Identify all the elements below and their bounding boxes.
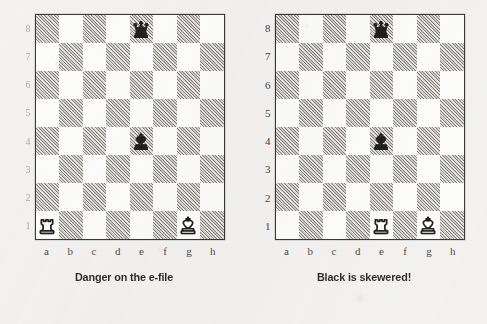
square-g2[interactable]	[417, 183, 441, 211]
square-e1[interactable]	[130, 211, 154, 239]
square-h7[interactable]	[200, 43, 224, 71]
square-g1[interactable]	[177, 211, 201, 239]
square-h2[interactable]	[440, 183, 464, 211]
square-h6[interactable]	[440, 71, 464, 99]
square-f6[interactable]	[393, 71, 417, 99]
square-c3[interactable]	[83, 155, 107, 183]
square-h8[interactable]	[200, 15, 224, 43]
square-c6[interactable]	[323, 71, 347, 99]
square-e6[interactable]	[130, 71, 154, 99]
square-a1[interactable]	[276, 211, 300, 239]
square-d3[interactable]	[346, 155, 370, 183]
square-d4[interactable]	[106, 127, 130, 155]
square-g2[interactable]	[177, 183, 201, 211]
square-d8[interactable]	[106, 15, 130, 43]
square-b2[interactable]	[299, 183, 323, 211]
square-b8[interactable]	[59, 15, 83, 43]
square-g4[interactable]	[417, 127, 441, 155]
square-e4[interactable]	[370, 127, 394, 155]
square-a6[interactable]	[276, 71, 300, 99]
square-f3[interactable]	[393, 155, 417, 183]
square-d3[interactable]	[106, 155, 130, 183]
square-a7[interactable]	[276, 43, 300, 71]
white-king-icon[interactable]	[177, 211, 201, 239]
square-b8[interactable]	[299, 15, 323, 43]
square-f5[interactable]	[393, 99, 417, 127]
square-c2[interactable]	[323, 183, 347, 211]
square-g7[interactable]	[177, 43, 201, 71]
square-f7[interactable]	[393, 43, 417, 71]
square-g8[interactable]	[177, 15, 201, 43]
square-g1[interactable]	[417, 211, 441, 239]
square-f2[interactable]	[393, 183, 417, 211]
square-b3[interactable]	[299, 155, 323, 183]
square-b2[interactable]	[59, 183, 83, 211]
square-c4[interactable]	[83, 127, 107, 155]
square-c1[interactable]	[323, 211, 347, 239]
square-c5[interactable]	[83, 99, 107, 127]
square-d6[interactable]	[106, 71, 130, 99]
square-h4[interactable]	[200, 127, 224, 155]
square-c7[interactable]	[83, 43, 107, 71]
square-c4[interactable]	[323, 127, 347, 155]
square-e3[interactable]	[370, 155, 394, 183]
square-e6[interactable]	[370, 71, 394, 99]
square-c7[interactable]	[323, 43, 347, 71]
square-d2[interactable]	[346, 183, 370, 211]
square-e3[interactable]	[130, 155, 154, 183]
square-c8[interactable]	[323, 15, 347, 43]
square-f8[interactable]	[153, 15, 177, 43]
square-g8[interactable]	[417, 15, 441, 43]
square-c3[interactable]	[323, 155, 347, 183]
square-f5[interactable]	[153, 99, 177, 127]
square-a3[interactable]	[36, 155, 60, 183]
square-f8[interactable]	[393, 15, 417, 43]
square-b6[interactable]	[299, 71, 323, 99]
square-g3[interactable]	[417, 155, 441, 183]
square-f4[interactable]	[393, 127, 417, 155]
black-king-icon[interactable]	[130, 127, 154, 155]
square-h1[interactable]	[440, 211, 464, 239]
chessboard[interactable]	[35, 14, 225, 240]
black-queen-icon[interactable]	[130, 15, 154, 43]
square-a3[interactable]	[276, 155, 300, 183]
square-e8[interactable]	[130, 15, 154, 43]
square-e7[interactable]	[130, 43, 154, 71]
square-e1[interactable]	[370, 211, 394, 239]
square-d7[interactable]	[106, 43, 130, 71]
square-e8[interactable]	[370, 15, 394, 43]
square-b4[interactable]	[299, 127, 323, 155]
square-b1[interactable]	[59, 211, 83, 239]
square-a2[interactable]	[36, 183, 60, 211]
square-a1[interactable]	[36, 211, 60, 239]
square-h5[interactable]	[200, 99, 224, 127]
square-h3[interactable]	[440, 155, 464, 183]
square-b5[interactable]	[299, 99, 323, 127]
square-d4[interactable]	[346, 127, 370, 155]
square-g6[interactable]	[177, 71, 201, 99]
square-h1[interactable]	[200, 211, 224, 239]
black-king-icon[interactable]	[370, 127, 394, 155]
square-e7[interactable]	[370, 43, 394, 71]
white-rook-icon[interactable]	[36, 211, 60, 239]
square-d2[interactable]	[106, 183, 130, 211]
square-d5[interactable]	[106, 99, 130, 127]
black-queen-icon[interactable]	[370, 15, 394, 43]
square-f1[interactable]	[393, 211, 417, 239]
square-c8[interactable]	[83, 15, 107, 43]
square-a5[interactable]	[36, 99, 60, 127]
square-h6[interactable]	[200, 71, 224, 99]
square-f7[interactable]	[153, 43, 177, 71]
square-d6[interactable]	[346, 71, 370, 99]
square-h8[interactable]	[440, 15, 464, 43]
white-rook-icon[interactable]	[370, 211, 394, 239]
square-b7[interactable]	[59, 43, 83, 71]
square-a5[interactable]	[276, 99, 300, 127]
square-f6[interactable]	[153, 71, 177, 99]
square-f2[interactable]	[153, 183, 177, 211]
square-c2[interactable]	[83, 183, 107, 211]
square-g5[interactable]	[417, 99, 441, 127]
square-a4[interactable]	[36, 127, 60, 155]
square-e2[interactable]	[130, 183, 154, 211]
square-a6[interactable]	[36, 71, 60, 99]
